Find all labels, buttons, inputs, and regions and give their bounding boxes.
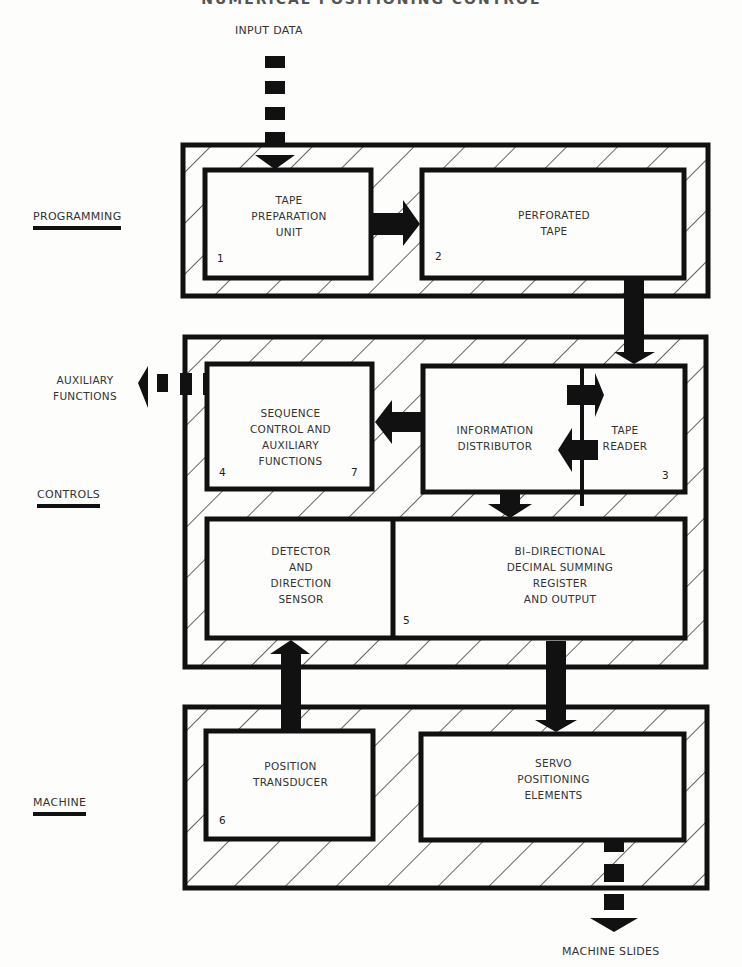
block-servo-positioning-elements: SERVO POSITIONING ELEMENTS bbox=[423, 755, 684, 803]
section-label-programming: PROGRAMMING bbox=[33, 210, 121, 230]
controls-frame bbox=[185, 337, 706, 667]
block-number-7: 7 bbox=[351, 466, 358, 478]
block-number-2: 2 bbox=[435, 250, 442, 262]
block-number-5: 5 bbox=[403, 614, 410, 626]
block-summing-register: BI–DIRECTIONAL DECIMAL SUMMING REGISTER … bbox=[440, 543, 680, 607]
section-label-machine: MACHINE bbox=[33, 796, 86, 816]
block-number-3: 3 bbox=[662, 469, 669, 481]
section-label-controls: CONTROLS bbox=[37, 488, 100, 508]
block-tape-reader: TAPE READER bbox=[590, 422, 660, 454]
block-detector-direction-sensor: DETECTOR AND DIRECTION SENSOR bbox=[209, 543, 393, 607]
block-number-1: 1 bbox=[217, 252, 224, 264]
input-data-label: INPUT DATA bbox=[235, 24, 303, 37]
block-position-transducer: POSITION TRANSDUCER bbox=[208, 758, 373, 790]
diagram-canvas bbox=[0, 0, 742, 967]
block-perforated-tape: PERFORATED TAPE bbox=[424, 207, 684, 239]
machine-slides-label: MACHINE SLIDES bbox=[562, 945, 660, 958]
block-information-distributor: INFORMATION DISTRIBUTOR bbox=[425, 422, 565, 454]
block-number-6: 6 bbox=[219, 814, 226, 826]
block-tape-preparation-unit: TAPE PREPARATION UNIT bbox=[207, 192, 371, 240]
auxiliary-functions-label: AUXILIARY FUNCTIONS bbox=[40, 372, 130, 404]
block-number-4: 4 bbox=[219, 466, 226, 478]
block-sequence-control: SEQUENCE CONTROL AND AUXILIARY FUNCTIONS bbox=[209, 405, 372, 469]
